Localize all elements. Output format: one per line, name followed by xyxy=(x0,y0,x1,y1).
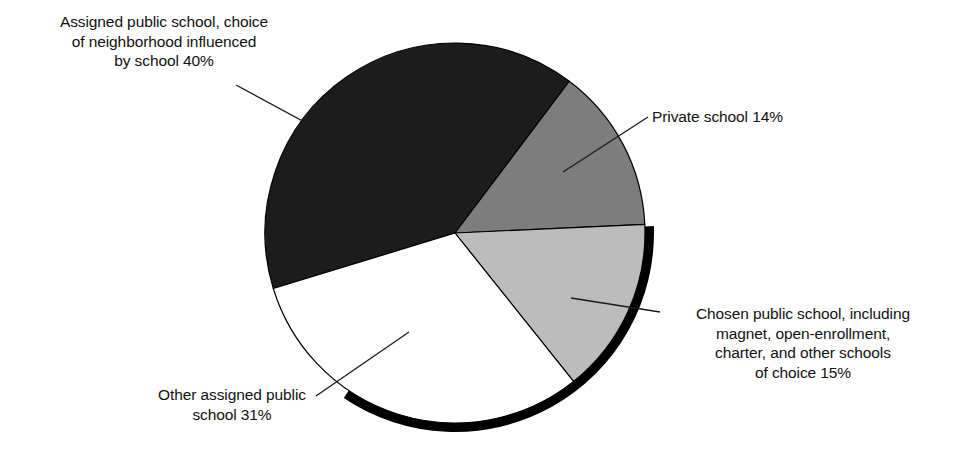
pie-label-private-school: Private school 14% xyxy=(652,107,882,127)
pie-chart-figure: Assigned public school, choice of neighb… xyxy=(0,0,964,454)
pie-label-chosen-public-school: Chosen public school, including magnet, … xyxy=(655,304,951,382)
pie-label-other-assigned-public-school: Other assigned public school 31% xyxy=(108,385,356,424)
pie-slices xyxy=(265,43,645,423)
pie-label-assigned-public-school-influenced: Assigned public school, choice of neighb… xyxy=(18,12,310,71)
